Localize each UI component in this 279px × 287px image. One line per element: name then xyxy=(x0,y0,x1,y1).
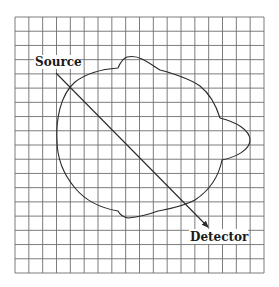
source-detector-ray xyxy=(56,73,208,227)
detector-label: Detector xyxy=(190,230,249,244)
scattering-diagram: Source Detector xyxy=(0,0,279,287)
source-label: Source xyxy=(35,55,82,69)
